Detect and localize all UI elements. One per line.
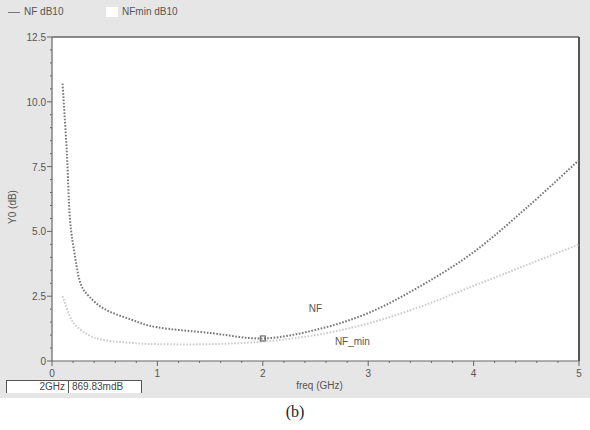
- marker-readout: 2GHz 869.83mdB: [6, 380, 142, 393]
- x-tick-label: 5: [576, 368, 582, 379]
- figure-caption: (b): [0, 403, 590, 421]
- x-axis-title: freq (GHz): [296, 380, 343, 391]
- annotation-nf: NF: [309, 303, 322, 314]
- annotation-nf-min: NF_min: [335, 336, 370, 347]
- y-tick-label: 7.5: [32, 162, 46, 173]
- x-tick-label: 3: [365, 368, 371, 379]
- y-tick-label: 5.0: [32, 226, 46, 237]
- x-tick-label: 2: [260, 368, 266, 379]
- y-axis-title: Y0 (dB): [7, 190, 18, 224]
- y-tick-label: 2.5: [32, 291, 46, 302]
- marker-freq: 2GHz: [6, 380, 69, 393]
- marker-value: 869.83mdB: [69, 380, 142, 393]
- y-tick-label: 12.5: [27, 32, 47, 43]
- y-tick-label: 10.0: [27, 97, 47, 108]
- chart-svg: 02.55.07.510.012.5012345freq (GHz)Y0 (dB…: [0, 0, 590, 398]
- x-tick-label: 0: [49, 368, 55, 379]
- x-tick-label: 1: [155, 368, 161, 379]
- y-tick-label: 0: [40, 356, 46, 367]
- x-tick-label: 4: [471, 368, 477, 379]
